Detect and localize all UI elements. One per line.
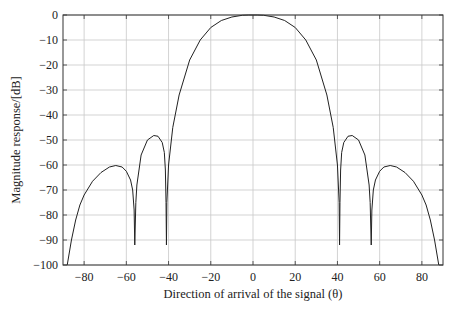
x-tick-label: 40 bbox=[331, 270, 343, 284]
y-tick-label: −80 bbox=[39, 208, 58, 222]
y-tick-label: −50 bbox=[39, 133, 58, 147]
y-tick-label: −70 bbox=[39, 183, 58, 197]
x-tick-label: 60 bbox=[374, 270, 386, 284]
x-tick-label: −80 bbox=[75, 270, 94, 284]
x-axis-label: Direction of arrival of the signal (θ) bbox=[164, 287, 343, 301]
y-tick-label: −10 bbox=[39, 33, 58, 47]
x-tick-labels: −80−60−40−20020406080 bbox=[75, 270, 428, 284]
y-tick-label: −90 bbox=[39, 233, 58, 247]
y-tick-labels: 0−10−20−30−40−50−60−70−80−90−100 bbox=[33, 8, 58, 272]
y-tick-label: −100 bbox=[33, 258, 58, 272]
y-tick-label: −30 bbox=[39, 83, 58, 97]
x-tick-label: 0 bbox=[250, 270, 256, 284]
x-tick-label: −60 bbox=[117, 270, 136, 284]
y-tick-label: 0 bbox=[52, 8, 58, 22]
y-tick-label: −60 bbox=[39, 158, 58, 172]
y-tick-label: −20 bbox=[39, 58, 58, 72]
magnitude-response-chart: −80−60−40−20020406080 0−10−20−30−40−50−6… bbox=[0, 0, 461, 311]
grid-lines bbox=[63, 15, 443, 265]
x-tick-label: 80 bbox=[416, 270, 428, 284]
y-tick-label: −40 bbox=[39, 108, 58, 122]
y-axis-label: Magnitude response/[dB] bbox=[9, 76, 23, 203]
x-tick-label: −40 bbox=[159, 270, 178, 284]
x-tick-label: −20 bbox=[201, 270, 220, 284]
x-tick-label: 20 bbox=[289, 270, 301, 284]
